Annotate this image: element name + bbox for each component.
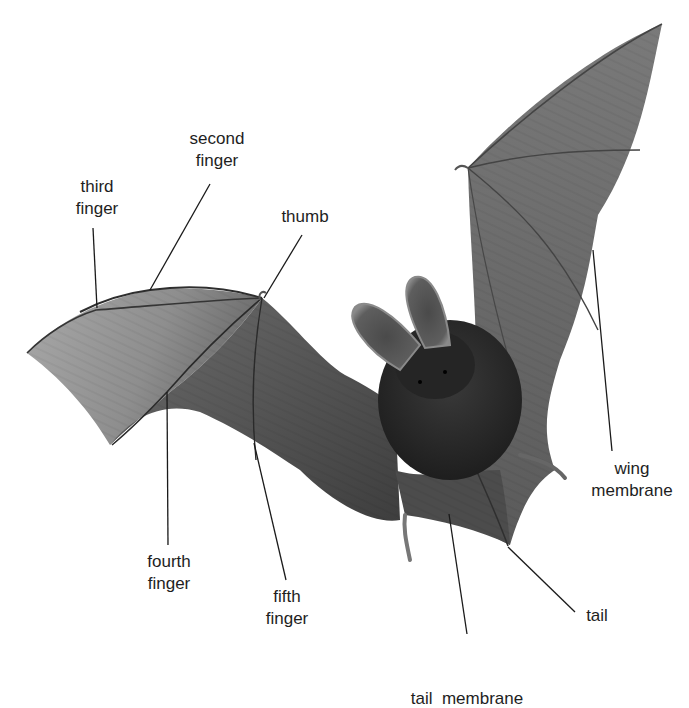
label-line: second — [190, 128, 245, 150]
left-foot — [404, 515, 410, 560]
label-line: tail — [586, 605, 608, 627]
label-third-finger: third finger — [76, 176, 119, 220]
left-wing — [27, 287, 400, 520]
label-line: fourth — [147, 551, 190, 573]
leader-line-tail — [508, 547, 575, 612]
label-line: thumb — [281, 206, 328, 228]
label-line: membrane — [591, 480, 672, 502]
leader-line-tail-membrane — [449, 514, 467, 634]
label-tail: tail — [586, 605, 608, 627]
label-fifth-finger: fifth finger — [266, 586, 309, 630]
leader-line-third-finger — [93, 228, 97, 308]
leader-line-fifth-finger — [254, 443, 286, 580]
right-thumb-claw — [455, 166, 468, 170]
label-line: fifth — [266, 586, 309, 608]
eye-left — [418, 380, 422, 384]
label-line: finger — [266, 608, 309, 630]
leader-line-wing-membrane — [593, 250, 612, 451]
label-thumb: thumb — [281, 206, 328, 228]
label-line: wing — [591, 458, 672, 480]
label-line: third — [76, 176, 119, 198]
leader-line-fourth-finger — [167, 392, 168, 545]
label-line: finger — [76, 198, 119, 220]
label-fourth-finger: fourth finger — [147, 551, 190, 595]
leader-line-thumb — [264, 235, 302, 298]
label-tail-membrane: tail membrane — [411, 644, 523, 708]
label-line: finger — [147, 573, 190, 595]
leader-line-second-finger — [150, 184, 210, 290]
label-line: finger — [190, 150, 245, 172]
label-second-finger: second finger — [190, 128, 245, 172]
label-line: tail membrane — [411, 688, 523, 708]
label-wing-membrane: wing membrane — [591, 458, 672, 502]
eye-right — [443, 370, 447, 374]
